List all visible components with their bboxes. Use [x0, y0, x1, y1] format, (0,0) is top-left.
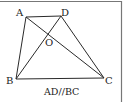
segment-AD — [26, 16, 61, 17]
point-label-B: B — [6, 75, 13, 86]
segment-AB — [16, 17, 26, 79]
point-label-C: C — [105, 75, 113, 86]
point-label-O: O — [45, 37, 53, 48]
diagonal-BD — [16, 16, 61, 79]
caption-parallel: AD//BC — [43, 86, 79, 97]
point-label-D: D — [61, 7, 69, 18]
segment-DC — [61, 16, 104, 78]
diagonal-AC — [26, 17, 104, 78]
trapezoid-diagram: A D O B C AD//BC — [0, 0, 123, 102]
point-label-A: A — [15, 7, 24, 18]
segment-BC — [16, 78, 104, 79]
diagram-frame: A D O B C AD//BC — [0, 0, 123, 102]
